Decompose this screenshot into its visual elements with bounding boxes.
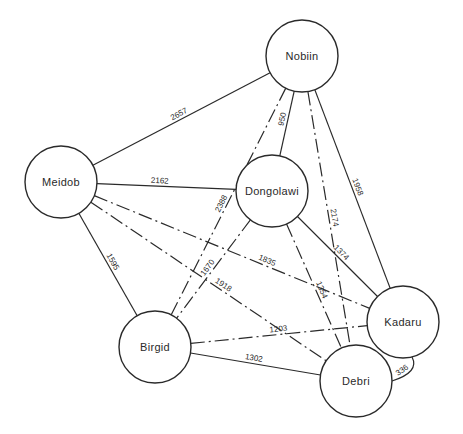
- node-nobiin: Nobiin: [266, 20, 338, 92]
- edge-dongolawi-kadaru: [297, 216, 377, 296]
- edge-nobiin-meidob: [93, 73, 270, 166]
- node-kadaru: Kadaru: [367, 286, 439, 358]
- edge-label: 2162: [151, 176, 170, 186]
- edge-nobiin-debri: [308, 92, 350, 346]
- node-label: Dongolawi: [245, 185, 299, 197]
- node-meidob: Meidob: [25, 146, 97, 218]
- edge-label: 2174: [329, 208, 341, 228]
- edge-label: 336: [394, 362, 411, 377]
- node-dongolawi: Dongolawi: [236, 155, 308, 227]
- nodes-layer: NobiinMeidobDongolawiBirgidKadaruDebri: [25, 20, 439, 417]
- edge-dongolawi-birgid: [177, 220, 251, 318]
- edge-label: 1958: [350, 177, 365, 197]
- edge-nobiin-kadaru: [315, 90, 390, 289]
- language-distance-network: NobiinMeidobDongolawiBirgidKadaruDebri 2…: [0, 0, 463, 434]
- node-label: Meidob: [42, 176, 80, 188]
- edge-label: 1918: [213, 276, 233, 294]
- node-debri: Debri: [320, 345, 392, 417]
- edge-label: 1203: [269, 324, 288, 335]
- node-birgid: Birgid: [119, 311, 191, 383]
- node-label: Kadaru: [384, 316, 421, 328]
- node-label: Birgid: [140, 341, 170, 353]
- node-label: Debri: [342, 375, 370, 387]
- node-label: Nobiin: [286, 50, 319, 62]
- edge-meidob-birgid: [79, 213, 137, 315]
